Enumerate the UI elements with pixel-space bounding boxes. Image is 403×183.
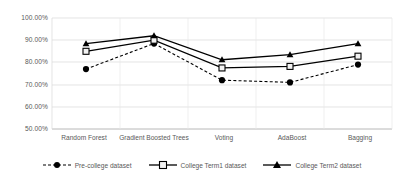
- data-point: [83, 48, 89, 54]
- legend-marker-triangle-solid-icon: [262, 160, 292, 170]
- data-point: [355, 62, 361, 68]
- legend-item-pre-college[interactable]: Pre-college dataset: [42, 160, 132, 170]
- series-college-term2-dataset: [83, 32, 362, 62]
- chart-legend: Pre-college dataset College Term1 datase…: [0, 160, 403, 170]
- gridlines: [52, 18, 392, 129]
- data-point: [287, 79, 293, 85]
- legend-marker-square-solid-icon: [148, 160, 178, 170]
- data-point: [219, 65, 225, 71]
- plot-area: [0, 0, 403, 183]
- series-line: [86, 36, 358, 60]
- series-college-term1-dataset: [83, 37, 361, 71]
- data-point: [355, 40, 362, 46]
- legend-label-pre-college: Pre-college dataset: [75, 162, 132, 169]
- legend-marker-circle-dashed-icon: [42, 160, 72, 170]
- x-tick-bagging: Bagging: [320, 133, 400, 142]
- line-chart: 100.00% 90.00% 80.00% 70.00% 60.00% 50.0…: [0, 0, 403, 183]
- legend-item-college-term2[interactable]: College Term2 dataset: [262, 160, 361, 170]
- data-point: [83, 66, 89, 72]
- data-point: [219, 77, 225, 83]
- data-point: [151, 32, 158, 38]
- legend-label-college-term1: College Term1 dataset: [181, 162, 247, 169]
- legend-label-college-term2: College Term2 dataset: [295, 162, 361, 169]
- series-pre-college-dataset: [83, 40, 361, 85]
- data-point: [355, 53, 361, 59]
- legend-item-college-term1[interactable]: College Term1 dataset: [148, 160, 247, 170]
- data-point: [287, 63, 293, 69]
